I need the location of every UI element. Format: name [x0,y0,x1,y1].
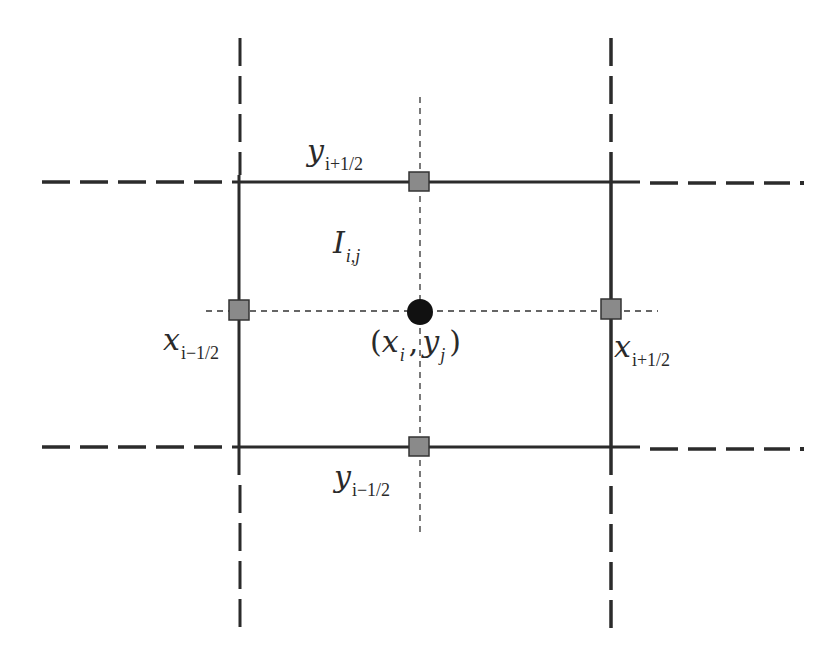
bottom-face-sub: i−1/2 [352,480,390,500]
bottom-face-marker [409,437,429,456]
top-face-label: yi+1/2 [307,136,363,166]
center-y-var: y [422,324,439,359]
left-face-marker [229,300,249,320]
bottom-face-label: yi−1/2 [334,462,390,492]
center-close-paren: ) [449,324,461,359]
left-face-var: x [163,322,180,357]
cell-center-marker [407,299,433,325]
right-face-label: xi+1/2 [614,332,670,362]
top-face-var: y [307,133,324,168]
cell-label: Ii,j [333,228,360,258]
bottom-face-var: y [334,459,351,494]
right-face-var: x [614,329,631,364]
bottom-grid-line-end-dot [800,447,804,451]
top-grid-line-end-dot [800,181,804,185]
left-face-sub: i−1/2 [181,343,219,363]
center-x-var: x [382,324,399,359]
cell-label-sub: i,j [346,246,361,266]
top-face-marker [409,172,429,191]
right-face-sub: i+1/2 [632,350,670,370]
cell-label-main: I [333,225,345,260]
center-x-sub: i [400,345,405,365]
right-face-marker [601,299,621,319]
center-separator: , [409,324,419,359]
top-face-sub: i+1/2 [325,154,363,174]
left-face-label: xi−1/2 [163,325,219,355]
center-label: (xi,yj) [370,327,461,357]
center-open-paren: ( [370,324,382,359]
center-y-sub: j [440,345,445,365]
